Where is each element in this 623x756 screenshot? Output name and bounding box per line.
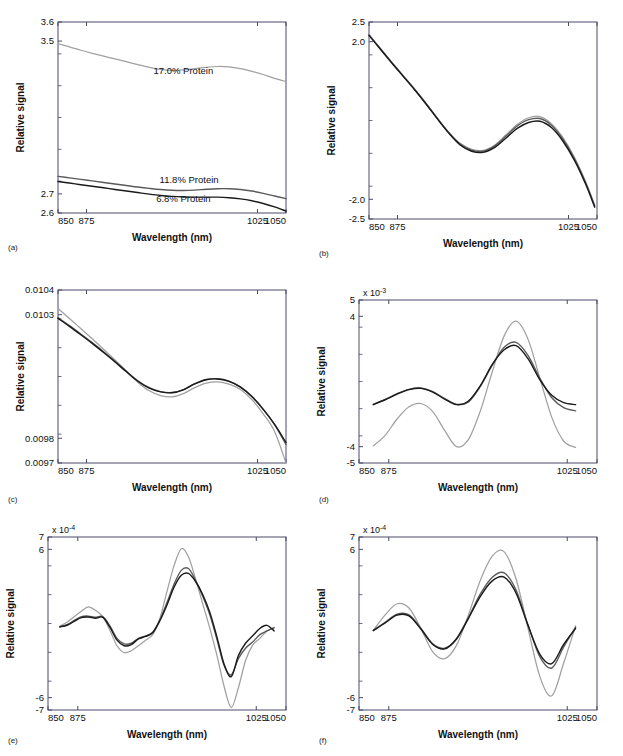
ytick-label: 0.0097	[25, 457, 54, 468]
ytick-label: -2.0	[349, 194, 365, 205]
ytick-label: 6	[350, 544, 355, 555]
data-series-line	[373, 342, 575, 411]
plot-frame-b	[369, 22, 597, 219]
exponent-text: x 10-4	[52, 524, 75, 536]
ytick-label: 0.0098	[25, 433, 54, 444]
panel-c: 850875102510500.00970.00980.01030.0104Wa…	[0, 278, 300, 493]
y-axis-label: Relative signal	[316, 588, 327, 658]
panel-e: 85087510251050-7-667x 10-4Wavelength (nm…	[0, 515, 300, 740]
figure-container: 850875102510502.62.73.53.617.0% Protein1…	[0, 0, 623, 756]
x-axis-label: Wavelength (nm)	[443, 238, 523, 249]
data-series-line	[58, 44, 286, 82]
ytick-label: -7	[36, 704, 44, 715]
x-axis-label: Wavelength (nm)	[132, 482, 212, 493]
data-series-line	[60, 568, 274, 675]
x-axis-label: Wavelength (nm)	[132, 232, 212, 243]
data-series-line	[373, 550, 575, 696]
data-series-line	[373, 572, 575, 668]
ytick-label: 2.7	[41, 188, 54, 199]
caption-f: (f)	[319, 736, 327, 745]
x-axis-label: Wavelength (nm)	[127, 729, 207, 740]
y-axis-label: Relative signal	[326, 85, 337, 155]
xtick-label: 850	[369, 221, 385, 232]
xtick-label: 850	[48, 712, 64, 723]
data-series-line	[369, 35, 595, 206]
data-series-line	[60, 548, 274, 707]
data-series-line	[373, 321, 575, 447]
y-axis-label: Relative signal	[15, 82, 26, 152]
plot-b: 85087510251050-2.5-2.02.02.5Wavelength (…	[311, 8, 611, 249]
series-annotation: 11.8% Protein	[160, 174, 219, 185]
data-series-line	[373, 576, 575, 664]
ytick-label: 0.0104	[25, 284, 54, 295]
ytick-label: 3.6	[41, 16, 54, 27]
exponent-text: x 10-3	[363, 287, 386, 299]
xtick-label: 1025	[557, 465, 578, 476]
xtick-label: 1050	[265, 712, 286, 723]
xtick-label: 1025	[557, 712, 578, 723]
caption-c: (c)	[8, 495, 17, 504]
ytick-label: 7	[39, 531, 44, 542]
x-axis-label: Wavelength (nm)	[438, 729, 518, 740]
data-series-line	[60, 573, 274, 677]
ytick-label: -2.5	[349, 213, 365, 224]
xtick-label: 850	[58, 215, 74, 226]
xtick-label: 1050	[265, 465, 286, 476]
ytick-label: 2.6	[41, 207, 54, 218]
ytick-label: 6	[39, 544, 44, 555]
data-series-line	[369, 35, 595, 206]
xtick-label: 875	[79, 465, 95, 476]
xtick-label: 850	[359, 712, 375, 723]
data-series-line	[369, 35, 595, 207]
xtick-label: 1050	[576, 465, 597, 476]
caption-a: (a)	[8, 243, 18, 252]
xtick-label: 875	[381, 712, 397, 723]
plot-c: 850875102510500.00970.00980.01030.0104Wa…	[0, 278, 300, 493]
series-annotation: 6.8% Protein	[156, 193, 210, 204]
plot-e: 85087510251050-7-667x 10-4Wavelength (nm…	[0, 515, 300, 740]
series-annotation: 17.0% Protein	[154, 65, 214, 76]
plot-a: 850875102510502.62.73.53.617.0% Protein1…	[0, 8, 300, 243]
ytick-label: 3.5	[41, 35, 54, 46]
ytick-label: 5	[350, 294, 355, 305]
xtick-label: 1050	[265, 215, 286, 226]
xtick-label: 850	[359, 465, 375, 476]
x-axis-label: Wavelength (nm)	[438, 482, 518, 493]
panel-f: 85087510251050-7-667x 10-4Wavelength (nm…	[311, 515, 611, 740]
ytick-label: 0.0103	[25, 309, 54, 320]
axis-exponent-f: x 10-4	[363, 524, 386, 536]
xtick-label: 850	[58, 465, 74, 476]
ytick-label: -6	[347, 692, 355, 703]
xtick-label: 875	[70, 712, 86, 723]
data-series-line	[58, 318, 286, 442]
data-series-line	[58, 309, 286, 463]
y-axis-label: Relative signal	[15, 341, 26, 411]
plot-frame-f	[359, 537, 597, 710]
ytick-label: -5	[347, 457, 355, 468]
xtick-label: 875	[381, 465, 397, 476]
xtick-label: 875	[390, 221, 406, 232]
xtick-label: 1050	[576, 712, 597, 723]
axis-exponent-d: x 10-3	[363, 287, 386, 299]
exponent-text: x 10-4	[363, 524, 386, 536]
caption-e: (e)	[8, 736, 18, 745]
ytick-label: -6	[36, 692, 44, 703]
panel-d: 85087510251050-5-445x 10-3Wavelength (nm…	[311, 278, 611, 493]
ytick-label: 7	[350, 531, 355, 542]
xtick-label: 1025	[246, 712, 267, 723]
ytick-label: 2.0	[352, 36, 365, 47]
axis-exponent-e: x 10-4	[52, 524, 75, 536]
panel-a: 850875102510502.62.73.53.617.0% Protein1…	[0, 8, 300, 243]
ytick-label: -4	[347, 441, 355, 452]
xtick-label: 875	[79, 215, 95, 226]
plot-f: 85087510251050-7-667x 10-4Wavelength (nm…	[311, 515, 611, 740]
plot-d: 85087510251050-5-445x 10-3Wavelength (nm…	[311, 278, 611, 493]
plot-frame-e	[48, 537, 286, 710]
ytick-label: -7	[347, 704, 355, 715]
plot-frame-c	[58, 290, 286, 463]
ytick-label: 2.5	[352, 16, 365, 27]
y-axis-label: Relative signal	[316, 346, 327, 416]
data-series-line	[58, 318, 286, 445]
ytick-label: 4	[350, 311, 355, 322]
caption-d: (d)	[319, 495, 329, 504]
